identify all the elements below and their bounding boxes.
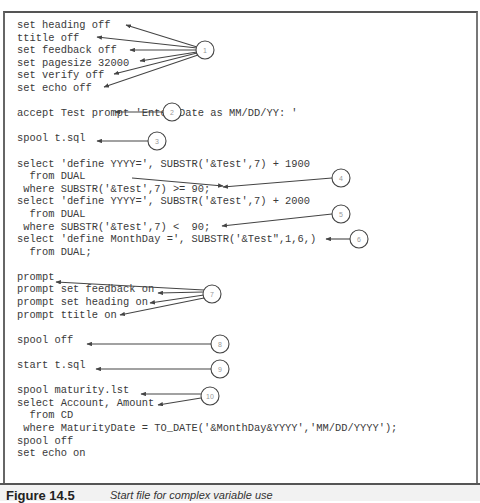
callout-number: 9 <box>218 366 222 373</box>
figure-caption: Figure 14.5 Start file for complex varia… <box>0 483 480 501</box>
callout-number: 3 <box>155 138 159 145</box>
callout-number: 8 <box>218 341 222 348</box>
figure-caption-text: Start file for complex variable use <box>110 489 273 501</box>
callout-number: 2 <box>170 109 174 116</box>
callout-number: 6 <box>357 236 361 243</box>
callout-number: 4 <box>339 175 343 182</box>
callout-number: 5 <box>339 211 343 218</box>
callout-number: 10 <box>206 393 214 400</box>
callout-number: 1 <box>203 47 207 54</box>
figure-label: Figure 14.5 <box>6 488 75 503</box>
callout-number: 7 <box>210 291 214 298</box>
